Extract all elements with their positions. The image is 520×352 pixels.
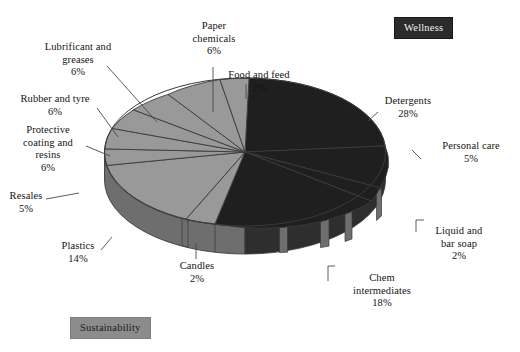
label-protective-coating: Protective coating and resins 6% (10, 124, 86, 174)
label-food-and-feed: Food and feed 2% (216, 69, 302, 94)
label-protective-line3: resins (35, 149, 60, 160)
pie-chart-figure: Paper chemicals 6% Lubrificant and greas… (0, 0, 520, 352)
leader-liquid-bar-soap (416, 220, 424, 232)
label-rubber-and-tyre: Rubber and tyre 6% (14, 93, 96, 118)
label-plastics-line1: Plastics (62, 240, 95, 251)
label-lubrificant-greases: Lubrificant and greases 6% (28, 41, 128, 79)
label-paper-chemicals-line1: Paper (202, 20, 226, 31)
leader-personal-care (412, 150, 421, 159)
label-detergents-line1: Detergents (385, 95, 431, 106)
label-food-and-feed-pct: 2% (216, 82, 302, 95)
label-lubrificant-pct: 6% (28, 66, 128, 79)
label-paper-chemicals: Paper chemicals 6% (173, 20, 255, 58)
label-candles: Candles 2% (172, 260, 222, 285)
label-resales: Resales 5% (4, 190, 48, 215)
side-wall-divider-chem-right (321, 218, 330, 248)
label-protective-line1: Protective (26, 124, 70, 135)
label-liquid-soap-line1: Liquid and (436, 225, 483, 236)
label-food-and-feed-line1: Food and feed (228, 69, 289, 80)
label-personal-care-pct: 5% (428, 153, 514, 166)
label-resales-pct: 5% (4, 203, 48, 216)
badge-sustainability[interactable]: Sustainability (70, 317, 151, 339)
label-liquid-soap-pct: 2% (424, 250, 494, 263)
label-chem-intermediates: Chem intermediates 18% (336, 272, 428, 310)
label-personal-care-line1: Personal care (442, 140, 500, 151)
label-liquid-bar-soap: Liquid and bar soap 2% (424, 225, 494, 263)
leader-rubber-and-tyre (97, 108, 118, 137)
leader-chem-intermediates (328, 266, 335, 281)
side-wall-divider-candles-left (182, 218, 188, 248)
label-paper-chemicals-line2: chemicals (193, 33, 236, 44)
label-lubrificant-line2: greases (62, 54, 94, 65)
label-resales-line1: Resales (10, 190, 43, 201)
side-wall-divider-personal-care (345, 211, 352, 242)
label-plastics: Plastics 14% (55, 240, 101, 265)
leader-plastics (101, 237, 112, 250)
label-protective-line2: coating and (23, 137, 73, 148)
label-candles-line1: Candles (180, 260, 215, 271)
label-chem-line1: Chem (369, 272, 394, 283)
label-protective-pct: 6% (10, 162, 86, 175)
label-liquid-soap-line2: bar soap (441, 238, 477, 249)
badge-wellness[interactable]: Wellness (394, 17, 453, 39)
label-detergents-pct: 28% (370, 108, 446, 121)
label-paper-chemicals-pct: 6% (173, 45, 255, 58)
label-personal-care: Personal care 5% (428, 140, 514, 165)
label-chem-pct: 18% (336, 297, 428, 310)
label-detergents: Detergents 28% (370, 95, 446, 120)
leader-resales (46, 193, 79, 199)
label-candles-pct: 2% (172, 273, 222, 286)
label-rubber-and-tyre-pct: 6% (14, 106, 96, 119)
side-wall-divider-chem-left (280, 224, 288, 252)
label-plastics-pct: 14% (55, 253, 101, 266)
label-lubrificant-line1: Lubrificant and (45, 41, 112, 52)
label-rubber-and-tyre-line1: Rubber and tyre (20, 93, 89, 104)
label-chem-line2: intermediates (353, 285, 411, 296)
